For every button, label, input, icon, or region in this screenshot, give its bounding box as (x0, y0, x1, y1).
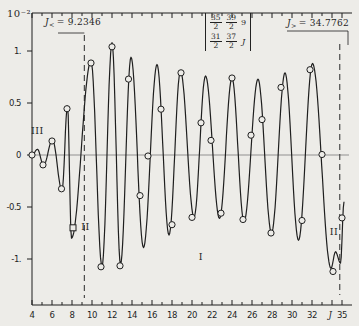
sixj-entry: 392 (226, 14, 238, 31)
exact-value-point (98, 264, 104, 270)
sixj-entry: J (242, 33, 245, 50)
exact-value-point (229, 75, 235, 81)
sixj-denominator: 2 (229, 42, 234, 50)
x-tick-label: 26 (243, 310, 261, 320)
exact-value-point (178, 70, 184, 76)
sixj-column: 9J (241, 13, 246, 51)
x-tick-label: 28 (263, 310, 281, 320)
exact-value-point (137, 193, 143, 199)
exact-value-point (64, 106, 70, 112)
sixj-column: 352312 (210, 13, 222, 51)
sixj-denominator: 2 (229, 23, 234, 31)
exact-value-point (299, 217, 305, 223)
exact-value-point (339, 215, 345, 221)
x-tick-label: 32 (303, 310, 321, 320)
y-scale-power-label: 10⁻² (7, 9, 31, 19)
exact-value-point (145, 153, 151, 159)
x-tick-label: 6 (43, 310, 61, 320)
y-tick-label: 0 (0, 150, 21, 160)
exact-value-point (319, 151, 325, 157)
j-less-value: = 9.2346 (57, 17, 101, 27)
x-tick-label: 18 (163, 310, 181, 320)
x-tick-label: 24 (223, 310, 241, 320)
exact-value-point (117, 263, 123, 269)
sixj-symbol-label: 3523123923729J (205, 13, 251, 51)
exact-value-point (88, 60, 94, 66)
sixj-entry: 372 (226, 33, 238, 50)
x-tick-label: 30 (283, 310, 301, 320)
y-tick-label: 1. (0, 46, 21, 56)
exact-value-square-point (70, 225, 76, 231)
exact-value-point (248, 132, 254, 138)
exact-value-point (330, 268, 336, 274)
scanned-figure: 10⁻² J< = 9.2346 J> = 34.7762 3523123923… (0, 0, 359, 326)
sixj-left-bar (205, 13, 206, 51)
y-tick-label: -1. (0, 254, 21, 264)
x-tick-label: 22 (203, 310, 221, 320)
sixj-column: 392372 (226, 13, 238, 51)
exact-value-point (49, 138, 55, 144)
y-tick-label: -0.5 (0, 202, 21, 212)
x-tick-label: 8 (63, 310, 81, 320)
exact-value-point (169, 222, 175, 228)
exact-value-point (218, 210, 224, 216)
sixj-right-bar (250, 13, 251, 51)
exact-value-point (278, 84, 284, 90)
sixj-denominator: 2 (213, 42, 218, 50)
exact-value-point (109, 44, 115, 50)
x-tick-label: 4 (23, 310, 41, 320)
exact-value-point (240, 216, 246, 222)
exact-value-point (29, 152, 35, 158)
sixj-entry: 9 (241, 14, 246, 31)
sixj-denominator: 2 (213, 23, 218, 31)
exact-value-point (208, 137, 214, 143)
exact-value-point (189, 214, 195, 220)
exact-value-point (125, 76, 131, 82)
x-tick-label: 10 (83, 310, 101, 320)
j-less-subscript: < (49, 21, 55, 29)
region-label-ii: II (81, 222, 90, 232)
region-label-iii: III (31, 126, 44, 136)
semiclassical-curve (32, 43, 344, 269)
exact-value-point (259, 117, 265, 123)
x-tick-label: 20 (183, 310, 201, 320)
exact-value-point (198, 120, 204, 126)
j-greater-value: = 34.7762 (299, 18, 349, 28)
sixj-plot-canvas (0, 0, 359, 326)
lower-turning-point-annotation: J< = 9.2346 (45, 18, 101, 29)
exact-value-point (158, 106, 164, 112)
j-greater-subscript: > (291, 22, 297, 30)
x-tick-label: 12 (103, 310, 121, 320)
x-tick-label: 16 (143, 310, 161, 320)
exact-value-point (58, 186, 64, 192)
exact-value-point (268, 230, 274, 236)
exact-value-point (307, 67, 313, 73)
x-tick-label: 35 (333, 310, 351, 320)
region-label-i: I (199, 252, 203, 262)
y-tick-label: 0.5 (0, 98, 21, 108)
sixj-entry: 312 (210, 33, 222, 50)
region-label-ii: II (330, 227, 339, 237)
sixj-entry: 352 (210, 14, 222, 31)
exact-value-point (40, 162, 46, 168)
x-tick-label: 14 (123, 310, 141, 320)
upper-turning-point-annotation: J> = 34.7762 (287, 19, 349, 30)
